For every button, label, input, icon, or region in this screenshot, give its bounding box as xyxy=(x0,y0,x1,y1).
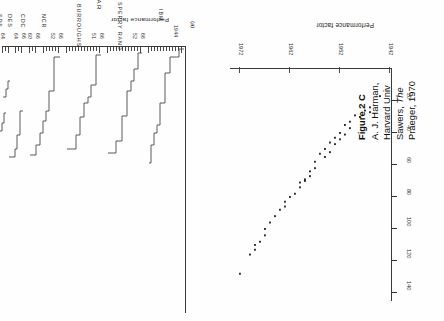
caption-line-author: A. J. Harman, xyxy=(369,0,382,140)
step-chart-figure: 1944 66 52 66 51 66 52 66 60 66 64 64 IB… xyxy=(0,0,222,321)
figure-caption-rotated: Figure 2 C A. J. Harman, Harvard Univ Sa… xyxy=(356,0,419,140)
page-canvas: 1944 66 52 66 51 66 52 66 60 66 64 64 IB… xyxy=(0,0,444,321)
caption-line-sawers: Sawers, The xyxy=(394,0,407,140)
figure-caption: Figure 2 C A. J. Harman, Harvard Univ Sa… xyxy=(352,0,444,321)
caption-sawers-plain: Sawers, xyxy=(394,104,405,140)
caption-line-publisher: Praeger, 1970 xyxy=(406,0,419,140)
caption-line-univ: Harvard Univ xyxy=(381,0,394,140)
step-chart-inner: 1944 66 52 66 51 66 52 66 60 66 64 64 IB… xyxy=(0,0,222,321)
step-chart-traces xyxy=(0,0,222,321)
caption-line-title: Figure 2 C xyxy=(356,0,369,140)
caption-sawers-italic: The xyxy=(394,87,405,103)
